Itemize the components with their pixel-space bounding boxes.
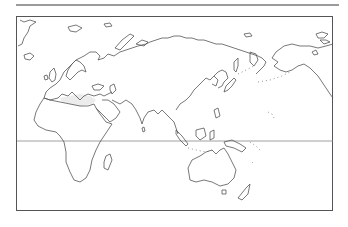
caspian-sea-outline: [110, 84, 116, 94]
philippines-outline: [214, 108, 220, 118]
novaya-zemlya-outline: [115, 34, 134, 50]
eurasia-north-coast: [60, 36, 266, 80]
africa-outline: [34, 98, 112, 182]
micronesia-islands: [268, 112, 274, 118]
world-outline-map: [0, 0, 348, 227]
australia-outline: [188, 148, 236, 186]
scandinavia-outline: [66, 60, 86, 80]
sulawesi-outline: [210, 130, 214, 140]
arabia-outline: [96, 100, 120, 122]
new-siberian-islands-outline: [244, 33, 252, 37]
franz-josef-outline: [104, 23, 112, 27]
mediterranean-sea: [60, 94, 96, 106]
tasmania-outline: [222, 190, 226, 194]
borneo-outline: [196, 128, 206, 140]
fiji-islands: [252, 162, 254, 164]
sri-lanka-outline: [142, 127, 145, 132]
madagascar-outline: [104, 154, 112, 170]
south-asia-coast: [112, 100, 178, 134]
greenland-outline: [18, 20, 36, 46]
sakhalin-outline: [234, 58, 238, 72]
alaska-outline: [272, 44, 333, 98]
arctic-archipelago-2: [320, 40, 330, 44]
java-lesser-sunda-islands: [188, 148, 214, 152]
kuril-islands: [238, 66, 254, 74]
black-sea-outline: [92, 84, 104, 90]
new-zealand-outline: [238, 184, 250, 200]
great-britain-outline: [49, 68, 56, 82]
east-asia-coast: [176, 70, 228, 110]
ireland-outline: [44, 75, 48, 80]
svalbard-outline: [68, 25, 82, 32]
iceland-outline: [24, 53, 34, 60]
solomon-islands: [250, 142, 262, 152]
new-guinea-outline: [224, 140, 246, 152]
aleutian-islands: [258, 72, 290, 82]
arctic-archipelago-3: [312, 50, 318, 55]
arctic-archipelago-1: [316, 32, 328, 38]
